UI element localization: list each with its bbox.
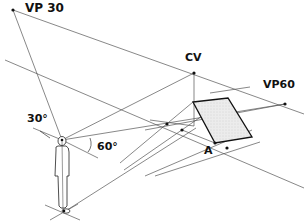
perspective-diagram: VP 30 CV VP60 30° 60° A	[0, 0, 307, 222]
angle-60-label: 60°	[97, 141, 118, 152]
vp60-point	[283, 102, 286, 105]
construction-lines	[5, 10, 304, 220]
measure-point-3	[225, 146, 228, 149]
sight-line-vp60	[62, 104, 285, 140]
angle-60-arc	[88, 138, 91, 152]
human-figure	[55, 137, 70, 214]
vp30-point	[11, 8, 14, 11]
measure-ray-1	[120, 102, 193, 163]
cv-label: CV	[185, 52, 202, 63]
angle-30-arm	[33, 128, 62, 140]
measure-point-1	[165, 122, 168, 125]
measure-point-2	[180, 128, 183, 131]
diagram-canvas	[0, 0, 307, 222]
picture-plane-line	[5, 60, 304, 188]
vp60-label: VP60	[263, 79, 295, 90]
point-a	[213, 141, 216, 144]
horizon-line	[13, 10, 304, 114]
ground-ray-1	[64, 128, 196, 212]
eye-point	[61, 139, 64, 142]
shaded-ground-plane	[193, 98, 252, 143]
point-a-label: A	[204, 145, 213, 156]
angle-30-label: 30°	[27, 113, 48, 124]
vp30-label: VP 30	[25, 2, 64, 14]
sight-line-cv	[62, 73, 194, 140]
cv-point	[192, 71, 195, 74]
feet-point	[63, 210, 66, 213]
